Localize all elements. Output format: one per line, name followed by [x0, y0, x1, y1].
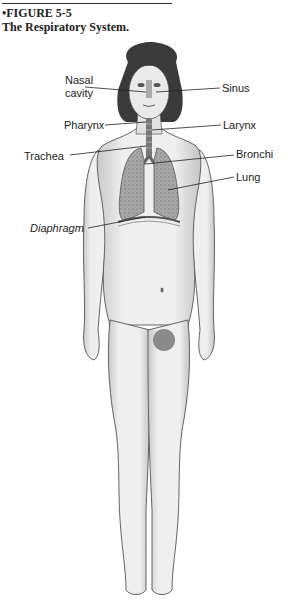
left-eye — [138, 83, 145, 87]
right-leg — [148, 320, 190, 595]
label-lung: Lung — [236, 171, 260, 184]
navel — [161, 288, 164, 293]
pubic-hair — [153, 329, 175, 351]
label-trachea: Trachea — [24, 150, 64, 163]
label-diaphragm: Diaphragm — [30, 222, 84, 235]
label-nasal-cavity: Nasal cavity — [65, 74, 93, 100]
nasal-cavity-shading — [146, 80, 152, 98]
label-bronchi: Bronchi — [236, 148, 273, 161]
left-leg — [108, 320, 150, 595]
label-larynx: Larynx — [223, 119, 256, 132]
label-sinus: Sinus — [222, 82, 250, 95]
right-eye — [154, 83, 161, 87]
body-illustration — [0, 0, 298, 603]
label-pharynx: Pharynx — [64, 119, 104, 132]
